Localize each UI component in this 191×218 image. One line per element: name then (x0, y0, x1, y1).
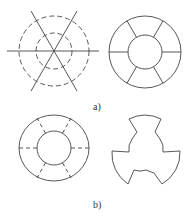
panel-label-b: b) (93, 199, 101, 210)
dashed-ring-figure (19, 115, 89, 181)
segmented-ring-figure (109, 16, 181, 88)
panel-label-a: a) (93, 101, 101, 112)
construction-figure (7, 11, 99, 91)
three-lobed-shape (112, 115, 180, 184)
